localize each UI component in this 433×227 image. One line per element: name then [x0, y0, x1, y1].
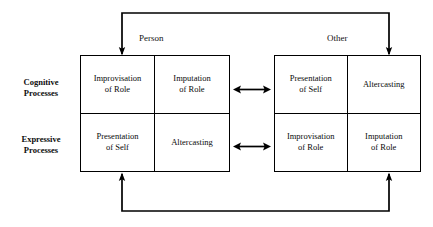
row-label-expressive-line1: Expressive — [8, 134, 74, 145]
column-header-person: Person — [139, 33, 164, 44]
row-label-cognitive-line2: Processes — [8, 88, 74, 99]
cell-line2: of Self — [106, 142, 129, 153]
cell-other-cognitive-altercasting: Altercasting — [348, 56, 421, 114]
matrix-other: Presentation of Self Altercasting Improv… — [274, 55, 421, 172]
cell-line1: Altercasting — [171, 137, 213, 148]
column-header-other: Other — [327, 33, 348, 44]
row-label-expressive: Expressive Processes — [8, 134, 74, 156]
cell-person-cognitive-imputation: Imputation of Role — [155, 56, 229, 114]
top-feedback-loop — [0, 0, 433, 58]
cell-line2: of Self — [299, 84, 322, 95]
double-arrow-icon-expressive — [233, 141, 271, 152]
matrix-person: Improvisation of Role Imputation of Role… — [80, 55, 230, 172]
row-label-expressive-line2: Processes — [8, 145, 74, 156]
cell-line1: Imputation — [173, 73, 210, 84]
cell-person-expressive-presentation: Presentation of Self — [81, 114, 155, 172]
cell-line1: Imputation — [365, 131, 402, 142]
cell-other-cognitive-presentation: Presentation of Self — [275, 56, 348, 114]
cell-person-cognitive-improvisation: Improvisation of Role — [81, 56, 155, 114]
cell-line1: Altercasting — [363, 79, 405, 90]
row-label-cognitive: Cognitive Processes — [8, 77, 74, 99]
cell-line1: Presentation — [290, 73, 332, 84]
cell-line2: of Role — [298, 142, 323, 153]
cell-line1: Improvisation — [287, 131, 335, 142]
diagram-canvas: Person Other Cognitive Processes Express… — [0, 0, 433, 227]
cell-other-expressive-imputation: Imputation of Role — [348, 114, 421, 172]
double-arrow-icon-cognitive — [233, 84, 271, 95]
cell-other-expressive-improvisation: Improvisation of Role — [275, 114, 348, 172]
cell-line1: Improvisation — [94, 73, 142, 84]
cell-line2: of Role — [371, 142, 396, 153]
cell-line2: of Role — [105, 84, 130, 95]
cell-person-expressive-altercasting: Altercasting — [155, 114, 229, 172]
cell-line2: of Role — [179, 84, 204, 95]
row-label-cognitive-line1: Cognitive — [8, 77, 74, 88]
bottom-feedback-loop — [0, 170, 433, 227]
cell-line1: Presentation — [96, 131, 138, 142]
